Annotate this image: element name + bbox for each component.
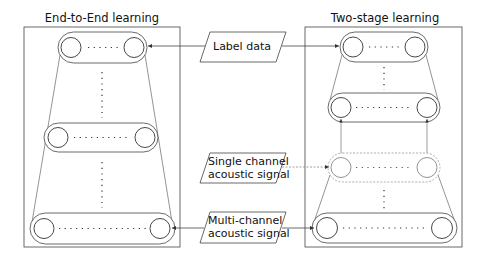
right-layer-lower-middle [328, 153, 440, 182]
right-layer-bottom [312, 213, 457, 243]
label-data-text: Label data [213, 40, 271, 53]
neuron-node-icon [61, 38, 81, 58]
multi-channel-text-line2: acoustic signal [208, 227, 290, 240]
neuron-node-icon [124, 38, 144, 58]
neuron-node-icon [34, 219, 54, 239]
multi-channel-text-line1: Multi-channel [208, 214, 282, 227]
neuron-node-icon [417, 158, 437, 178]
end-to-end-panel [24, 27, 180, 247]
neuron-node-icon [405, 37, 425, 57]
left-layer-middle [44, 123, 158, 152]
neuron-node-icon [343, 37, 363, 57]
neuron-node-icon [331, 98, 351, 118]
left-layer-top [58, 32, 147, 63]
neuron-node-icon [331, 158, 351, 178]
single-channel-text-line2: acoustic signal [208, 168, 290, 181]
two-stage-panel [305, 27, 462, 247]
neuron-node-icon [417, 98, 437, 118]
right-layer-upper-middle [328, 93, 440, 122]
neuron-node-icon [48, 128, 68, 148]
left-layer-bottom [30, 213, 175, 244]
neuron-node-icon [317, 218, 338, 239]
neuron-node-icon [135, 128, 155, 148]
neuron-node-icon [432, 218, 453, 239]
neuron-node-icon [150, 219, 170, 239]
single-channel-text-line1: Single channel [208, 155, 289, 168]
right-layer-top [340, 32, 428, 62]
left-panel-title: End-to-End learning [45, 11, 159, 25]
right-panel-title: Two-stage learning [331, 11, 439, 25]
